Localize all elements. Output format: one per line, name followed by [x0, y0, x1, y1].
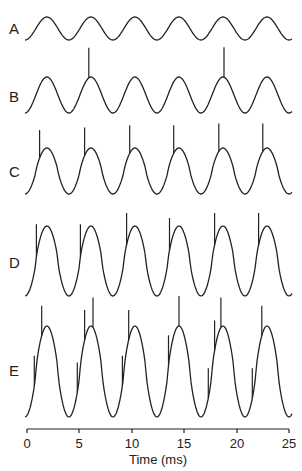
trace-c: [25, 148, 292, 194]
tick-10: 10: [125, 436, 139, 451]
trace-a: [25, 17, 292, 40]
tick-5: 5: [75, 436, 82, 451]
figure: A B C D E 0 5 10 15 20 25 Time (ms): [0, 0, 302, 471]
trace-d: [25, 226, 292, 296]
tick-15: 15: [177, 436, 191, 451]
trace-label-a: A: [9, 20, 19, 37]
tick-20: 20: [230, 436, 244, 451]
traces: [25, 17, 292, 417]
x-axis: 0 5 10 15 20 25 Time (ms): [23, 429, 296, 467]
trace-label-e: E: [9, 362, 19, 379]
trace-b: [25, 77, 292, 113]
tick-25: 25: [282, 436, 296, 451]
trace-label-d: D: [9, 254, 20, 271]
x-axis-label: Time (ms): [129, 452, 187, 467]
trace-label-b: B: [9, 88, 19, 105]
tick-0: 0: [23, 436, 30, 451]
trace-label-c: C: [9, 163, 20, 180]
